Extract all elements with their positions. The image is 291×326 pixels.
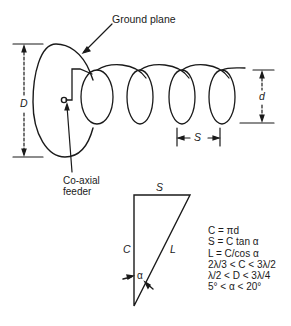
formula-pitch-angle-range: 5° < α < 20° (208, 281, 276, 292)
feeder-leader (67, 106, 72, 172)
d-dimension (240, 70, 274, 123)
formula-turn-length: L = C/cos α (208, 248, 276, 259)
alpha-label: α (137, 270, 143, 281)
formula-circumference-range: 2λ/3 < C < 3λ/2 (208, 259, 276, 270)
coaxial-feeder-label-line1: Co-axial (63, 175, 100, 186)
C-label: C (123, 244, 131, 255)
design-formulas: C = πd S = C tan α L = C/cos α 2λ/3 < C … (208, 225, 276, 293)
D-label: D (20, 98, 28, 109)
coaxial-feeder-label-line2: feeder (63, 186, 91, 197)
formula-spacing: S = C tan α (208, 236, 276, 247)
ground-plane-label: Ground plane (112, 14, 176, 25)
helix-coil (81, 65, 245, 124)
pitch-triangle (123, 195, 190, 306)
S-triangle-label: S (156, 182, 163, 193)
d-label: d (259, 91, 265, 102)
formula-ground-plane-range: λ/2 < D < 3λ/4 (208, 270, 276, 281)
ground-plane (33, 44, 93, 157)
S-helix-label: S (194, 132, 201, 143)
formula-circumference: C = πd (208, 225, 276, 236)
L-label: L (170, 244, 176, 255)
